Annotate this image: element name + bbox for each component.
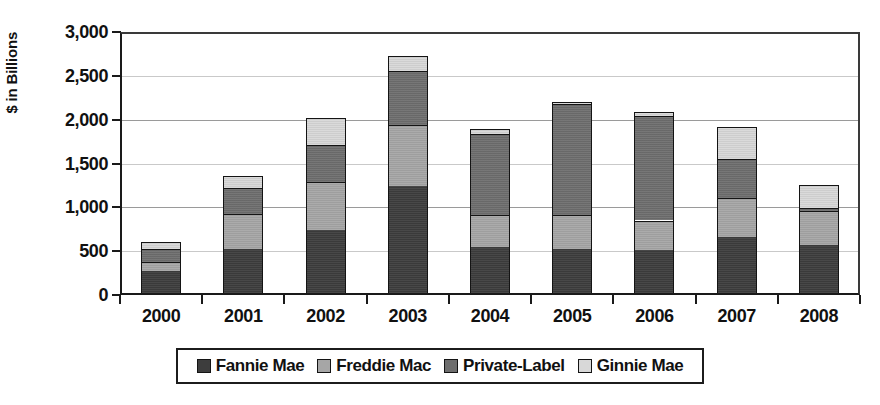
x-tick-mark — [119, 295, 121, 304]
legend-swatch-freddie — [317, 359, 331, 373]
x-axis-tick-marks — [120, 295, 860, 304]
x-tick-label: 2004 — [471, 306, 509, 327]
legend-label: Freddie Mac — [336, 356, 431, 376]
x-tick-mark — [777, 295, 779, 304]
x-tick-mark — [448, 295, 450, 304]
plot-frame — [120, 32, 860, 295]
x-tick-mark — [530, 295, 532, 304]
chart-page: $ in Billions 3,0002,5002,0001,5001,0005… — [0, 0, 880, 405]
x-tick-mark — [612, 295, 614, 304]
x-tick-mark — [366, 295, 368, 304]
x-tick-mark — [695, 295, 697, 304]
x-tick-mark — [859, 295, 861, 304]
x-tick-label: 2003 — [389, 306, 427, 327]
x-tick-label: 2005 — [553, 306, 591, 327]
chart-legend: Fannie MaeFreddie MacPrivate-LabelGinnie… — [176, 348, 704, 384]
legend-entry[interactable]: Freddie Mac — [317, 356, 431, 376]
x-tick-label: 2002 — [306, 306, 344, 327]
x-tick-mark — [201, 295, 203, 304]
x-tick-label: 2007 — [717, 306, 755, 327]
legend-entry[interactable]: Ginnie Mae — [578, 356, 684, 376]
legend-entry[interactable]: Fannie Mae — [197, 356, 305, 376]
x-tick-label: 2006 — [635, 306, 673, 327]
legend-swatch-fannie — [197, 359, 211, 373]
legend-label: Fannie Mae — [216, 356, 305, 376]
x-tick-label: 2001 — [224, 306, 262, 327]
y-axis-tick-marks — [0, 32, 122, 295]
legend-swatch-ginnie — [578, 359, 592, 373]
legend-label: Private-Label — [463, 356, 565, 376]
x-tick-mark — [283, 295, 285, 304]
plot-area — [120, 32, 860, 295]
x-tick-label: 2000 — [142, 306, 180, 327]
x-axis-tick-labels: 200020012002200320042005200620072008 — [120, 306, 860, 332]
legend-entry[interactable]: Private-Label — [444, 356, 565, 376]
legend-label: Ginnie Mae — [597, 356, 684, 376]
legend-swatch-private — [444, 359, 458, 373]
x-tick-label: 2008 — [800, 306, 838, 327]
